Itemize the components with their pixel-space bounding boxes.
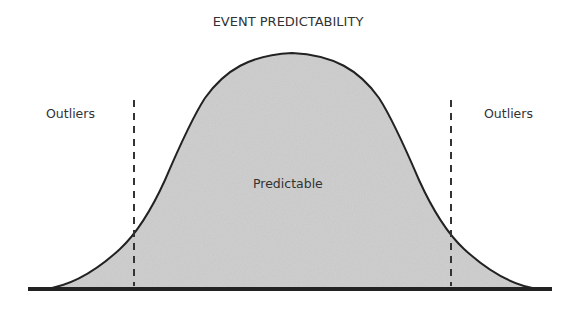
fill-texture [45,53,539,289]
bell-curve-diagram [0,0,576,311]
predictable-label: Predictable [253,176,323,191]
left-outliers-label: Outliers [46,106,95,121]
right-outliers-label: Outliers [484,106,533,121]
